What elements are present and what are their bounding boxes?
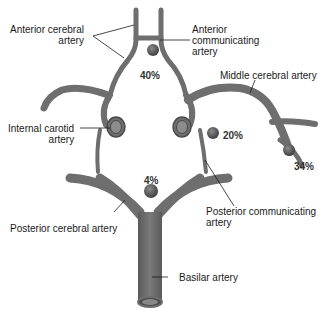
label-line: Posterior communicating [206,206,316,217]
aneurysm-acom [147,44,159,56]
label-line: Anterior cerebral [10,24,84,35]
label-internal-carotid-artery: Internal carotid artery [8,123,74,145]
label-line: Anterior [192,24,259,35]
label-anterior-communicating-artery: Anterior communicating artery [192,24,259,57]
basilar-artery [138,212,162,302]
circle-of-willis-diagram: Anterior cerebral artery Anterior commun… [0,0,327,311]
label-line: Internal carotid [8,123,74,134]
label-middle-cerebral-artery: Middle cerebral artery [220,70,317,81]
label-anterior-cerebral-artery: Anterior cerebral artery [10,24,84,46]
pct-internal-carotid: 20% [223,130,243,141]
label-line: artery [10,35,84,46]
aneurysm-mca [283,144,295,156]
pct-anterior-communicating: 40% [140,70,160,81]
label-posterior-communicating-artery: Posterior communicating artery [206,206,316,228]
label-posterior-cerebral-artery: Posterior cerebral artery [10,223,117,234]
aneurysm-basilar [144,184,158,198]
label-line: communicating [192,35,259,46]
pct-middle-cerebral: 34% [294,161,314,172]
label-line: artery [192,46,259,57]
label-line: artery [8,134,74,145]
aneurysm-ica [207,127,219,139]
pcom-left [97,130,100,172]
label-line: artery [206,217,316,228]
anterior-cerebral-right [161,10,186,95]
anterior-cerebral-left [110,10,136,95]
vessel-drawing [0,0,327,311]
pct-basilar-tip: 4% [144,175,158,186]
pcom-right [200,130,206,172]
label-basilar-artery: Basilar artery [179,272,238,283]
